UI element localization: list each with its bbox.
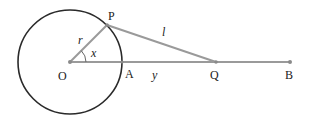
- point-P: [105, 23, 109, 27]
- label-Q: Q: [210, 68, 219, 82]
- label-l: l: [162, 25, 166, 39]
- angle-arc-x: [81, 51, 86, 62]
- point-B: [288, 60, 292, 64]
- segment-OP: [70, 25, 107, 62]
- label-x: x: [90, 46, 97, 60]
- label-A: A: [125, 67, 134, 81]
- label-y: y: [151, 68, 158, 82]
- label-B: B: [285, 68, 293, 82]
- label-O: O: [58, 69, 67, 83]
- point-A: [120, 60, 123, 63]
- label-P: P: [108, 9, 115, 23]
- point-Q: [214, 60, 218, 64]
- label-r: r: [78, 33, 83, 47]
- point-O: [68, 60, 72, 64]
- geometry-diagram: O P A Q B r x l y: [0, 0, 310, 121]
